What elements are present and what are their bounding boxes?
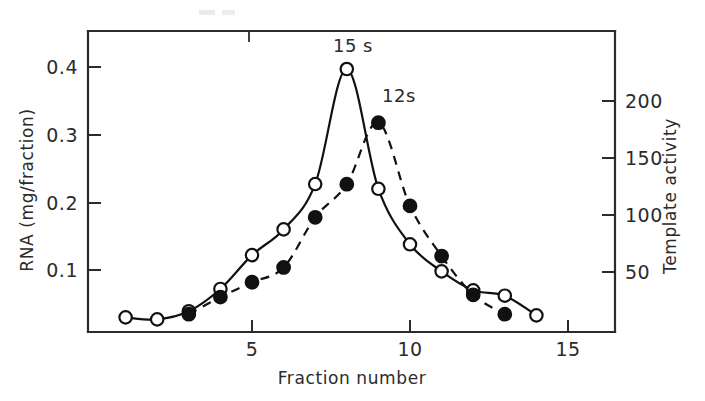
data-point-open-circle — [530, 309, 542, 321]
data-series-layer — [119, 63, 542, 326]
data-point-open-circle — [404, 238, 416, 250]
y-tick-label-0-4: 0.4 — [46, 56, 78, 78]
data-point-open-circle — [435, 265, 447, 277]
x-tick-label-10: 10 — [397, 338, 422, 360]
data-point-filled-circle — [340, 178, 353, 191]
y-axis-left-ticks — [88, 67, 101, 270]
data-point-filled-circle — [182, 308, 195, 321]
y-axis-left-title: RNA (mg/fraction) — [17, 108, 37, 271]
data-point-filled-circle — [435, 250, 448, 263]
y2-tick-label-50: 50 — [625, 261, 650, 283]
data-point-open-circle — [341, 63, 353, 75]
data-point-open-circle — [309, 178, 321, 190]
annotation-12s: 12s — [382, 85, 416, 106]
y-axis-right-title: Template activity — [660, 118, 680, 275]
series-line-2 — [189, 122, 505, 314]
chart-figure: 0.4 0.3 0.2 0.1 200 150 100 50 5 10 15 F… — [0, 0, 705, 401]
y-tick-label-0-1: 0.1 — [46, 259, 78, 281]
scan-artifact — [199, 10, 235, 15]
y-axis-right-ticks — [602, 101, 615, 272]
data-point-filled-circle — [246, 276, 259, 289]
y-axis-right-tick-labels: 200 150 100 50 — [625, 90, 663, 283]
data-point-filled-circle — [277, 261, 290, 274]
data-point-filled-circle — [214, 291, 227, 304]
y2-tick-label-100: 100 — [625, 204, 663, 226]
data-point-filled-circle — [404, 199, 417, 212]
x-axis-ticks — [249, 31, 568, 332]
x-axis-title: Fraction number — [278, 368, 427, 388]
data-point-open-circle — [151, 313, 163, 325]
x-tick-label-15: 15 — [555, 338, 580, 360]
x-tick-label-5: 5 — [246, 338, 259, 360]
x-axis-tick-labels: 5 10 15 — [246, 338, 581, 360]
annotation-15s: 15 s — [333, 35, 373, 56]
data-point-filled-circle — [309, 211, 322, 224]
data-point-open-circle — [119, 311, 131, 323]
chart-canvas: 0.4 0.3 0.2 0.1 200 150 100 50 5 10 15 F… — [0, 0, 705, 401]
data-point-open-circle — [499, 290, 511, 302]
series-line-1 — [126, 69, 537, 320]
data-point-open-circle — [372, 183, 384, 195]
y2-tick-label-200: 200 — [625, 90, 663, 112]
data-point-filled-circle — [498, 308, 511, 321]
series-markers-2 — [182, 116, 511, 320]
data-point-filled-circle — [467, 288, 480, 301]
y-axis-left-tick-labels: 0.4 0.3 0.2 0.1 — [46, 56, 78, 281]
data-point-open-circle — [246, 249, 258, 261]
series-markers-1 — [119, 63, 542, 326]
y-tick-label-0-2: 0.2 — [46, 192, 78, 214]
data-point-open-circle — [277, 223, 289, 235]
y2-tick-label-150: 150 — [625, 147, 663, 169]
y-tick-label-0-3: 0.3 — [46, 124, 78, 146]
data-point-filled-circle — [372, 116, 385, 129]
